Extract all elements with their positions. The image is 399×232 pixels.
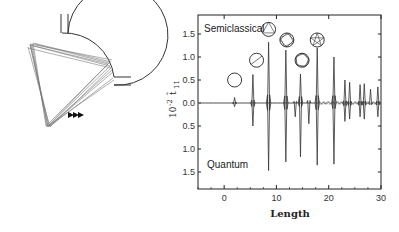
plot-area: 0102030 1.51.00.50.00.51.01.5 Semiclassi… [166, 15, 386, 219]
x-axis-label: Length [270, 208, 310, 219]
y-label-subscript: 11 [173, 80, 181, 89]
quantum-peak [307, 101, 311, 124]
figure: 0102030 1.51.00.50.00.51.01.5 Semiclassi… [0, 0, 399, 232]
y-tick-label: 1.5 [182, 29, 195, 39]
x-tick-label: 20 [324, 193, 334, 203]
semiclassical-peak [298, 74, 302, 106]
x-tick-label: 10 [271, 193, 281, 203]
annotation-quantum: Quantum [207, 159, 248, 170]
quantum-peak [293, 101, 297, 116]
orbit-circle [295, 53, 309, 67]
billiard-wall [62, 0, 168, 85]
orbit-circle-icon [228, 73, 242, 87]
y-tick-label: 0.5 [182, 121, 195, 131]
x-tick-label: 30 [376, 193, 386, 203]
orbit-star-icon [310, 33, 324, 47]
orbit-square-icon [280, 33, 294, 47]
y-tick-label: 1.0 [182, 144, 195, 154]
billiard-diagram [28, 0, 168, 127]
y-axis-label: 10 -2 t̂ 11 [166, 80, 181, 118]
y-label-symbol: t̂ [166, 91, 178, 95]
y-tick-label: 1.5 [182, 167, 195, 177]
y-tick-label: 0.0 [182, 98, 195, 108]
annotation-semiclassical: Semiclassical [204, 23, 265, 34]
y-tick-label: 0.5 [182, 75, 195, 85]
orbit-circle [228, 73, 242, 87]
orbit-circle [280, 33, 294, 47]
orbit-circle [310, 33, 324, 47]
x-tick-label: 0 [222, 193, 227, 203]
y-label-prefix: 10 [168, 106, 178, 118]
y-tick-label: 1.0 [182, 52, 195, 62]
orbit-pentagon-icon [295, 53, 309, 67]
series [198, 42, 381, 170]
arrow-icons [68, 112, 84, 118]
y-label-exponent: -2 [166, 99, 174, 106]
orbit-diameter-icon [250, 53, 264, 67]
arrow-icon [78, 112, 84, 118]
